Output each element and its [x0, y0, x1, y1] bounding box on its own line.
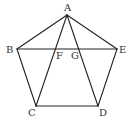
label-d: D: [99, 107, 107, 118]
segment-ab: [17, 15, 67, 49]
label-e: E: [119, 44, 126, 55]
segment-ea: [67, 15, 117, 49]
label-b: B: [6, 44, 13, 55]
pentagon-diagram: A B E F G C D: [0, 0, 128, 120]
segments-group: [17, 15, 117, 106]
label-f: F: [56, 50, 63, 61]
segment-de: [98, 49, 117, 106]
label-c: C: [28, 107, 36, 118]
label-g: G: [71, 50, 79, 61]
segment-bc: [17, 49, 36, 106]
label-a: A: [63, 2, 72, 13]
